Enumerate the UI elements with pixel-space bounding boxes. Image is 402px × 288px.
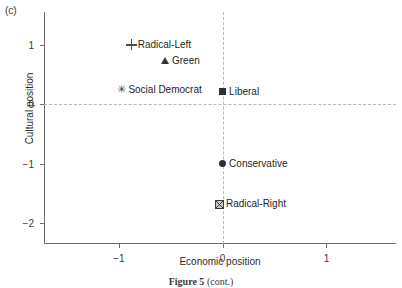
data-point-label: Liberal bbox=[229, 86, 259, 97]
asterisk-marker-icon bbox=[116, 84, 127, 95]
square-marker-icon bbox=[217, 86, 228, 97]
y-tick-label: −2 bbox=[23, 218, 34, 229]
boxed-cross-marker-icon bbox=[214, 198, 225, 209]
data-point: Green bbox=[160, 55, 200, 66]
x-axis-spine bbox=[44, 243, 396, 244]
caption-continuation: (cont.) bbox=[204, 276, 233, 287]
triangle-marker-icon bbox=[160, 55, 171, 66]
data-point: Liberal bbox=[217, 86, 259, 97]
data-point-label: Green bbox=[172, 55, 200, 66]
data-point: Social Democrat bbox=[116, 84, 201, 95]
circle-marker-icon bbox=[217, 158, 228, 169]
y-tick bbox=[40, 45, 44, 46]
y-tick bbox=[40, 104, 44, 105]
data-point: Conservative bbox=[217, 158, 287, 169]
data-point-label: Social Democrat bbox=[128, 84, 201, 95]
y-tick bbox=[40, 223, 44, 224]
y-axis-spine bbox=[44, 12, 45, 244]
data-point: Radical-Right bbox=[214, 198, 286, 209]
caption-figure-number: Figure 5 bbox=[169, 276, 205, 287]
data-point-label: Radical-Left bbox=[138, 39, 191, 50]
plus-marker-icon bbox=[126, 39, 137, 50]
x-tick bbox=[223, 244, 224, 248]
y-tick bbox=[40, 164, 44, 165]
figure-panel-c: (c) −10110−1−2 Radical-LeftGreenSocial D… bbox=[0, 0, 402, 288]
data-point-label: Radical-Right bbox=[226, 198, 286, 209]
x-tick bbox=[119, 244, 120, 248]
data-point: Radical-Left bbox=[126, 39, 191, 50]
x-tick bbox=[326, 244, 327, 248]
gridline-vertical-zero bbox=[223, 12, 224, 244]
y-axis-title: Cultural position bbox=[24, 39, 35, 179]
figure-caption: Figure 5 (cont.) bbox=[0, 276, 402, 287]
x-axis-title: Economic position bbox=[44, 256, 396, 267]
data-point-label: Conservative bbox=[229, 158, 287, 169]
panel-label: (c) bbox=[5, 5, 17, 16]
gridline-horizontal-zero bbox=[44, 104, 396, 105]
plot-area: −10110−1−2 Radical-LeftGreenSocial Democ… bbox=[44, 12, 396, 244]
